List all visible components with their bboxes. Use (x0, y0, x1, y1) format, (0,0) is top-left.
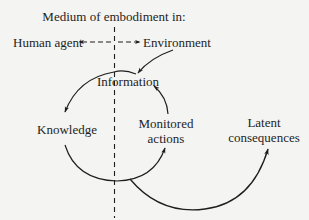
node-information: Information (97, 74, 159, 89)
node-latent-consequences-line1: Latent (247, 115, 280, 130)
knowledge-to-latent-consequences-arrow (130, 149, 268, 210)
diagram-title: Medium of embodiment in: (42, 9, 185, 24)
node-human-agent: Human agent (13, 35, 83, 50)
node-knowledge: Knowledge (37, 122, 97, 137)
node-monitored-actions-line1: Monitored (139, 116, 194, 131)
node-environment: Environment (143, 35, 211, 50)
monitored-actions-to-information-arrow (154, 86, 168, 114)
diagram-canvas: Medium of embodiment in: Human agent Env… (0, 0, 309, 220)
environment-to-information-arrow (138, 50, 173, 73)
node-latent-consequences-line2: consequences (228, 130, 299, 145)
diagram-lines (0, 0, 309, 220)
node-monitored-actions-line2: actions (148, 131, 185, 146)
